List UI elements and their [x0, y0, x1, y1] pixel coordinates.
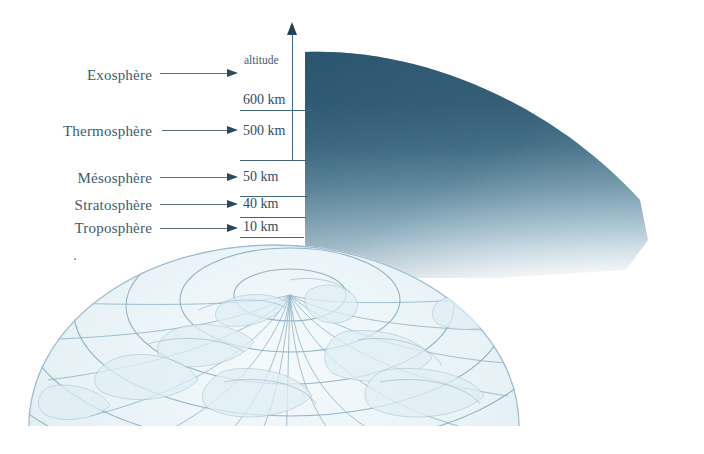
arrow-shaft — [160, 204, 227, 205]
arrow-shaft — [160, 228, 227, 229]
layer-label-mesosphere: Mésosphère — [78, 171, 152, 186]
layer-label-stratosphere: Stratosphère — [75, 198, 152, 213]
pointer-arrow-troposphere — [160, 224, 238, 233]
pointer-arrow-mesosphere — [160, 173, 238, 182]
altitude-axis-line — [292, 34, 294, 160]
altitude-rule-10km — [240, 237, 304, 238]
altitude-rule-600km — [240, 110, 314, 111]
altitude-tick-10km: 10 km — [243, 220, 278, 234]
arrow-head — [227, 224, 238, 232]
altitude-rule-500km — [240, 160, 312, 161]
arrow-head — [227, 69, 238, 77]
pointer-arrow-exosphere — [160, 69, 238, 78]
arrow-shaft — [160, 177, 227, 178]
altitude-tick-40km: 40 km — [243, 197, 278, 211]
arrow-head — [227, 200, 238, 208]
altitude-axis-caption: altitude — [244, 54, 279, 66]
layer-label-thermosphere: Thermosphère — [63, 124, 152, 139]
arrow-head — [227, 173, 238, 181]
pointer-arrow-stratosphere — [160, 200, 238, 209]
pointer-arrow-thermosphere — [162, 126, 238, 135]
layer-label-troposphere: Troposphère — [75, 221, 152, 236]
altitude-tick-50km: 50 km — [243, 170, 278, 184]
altitude-tick-500km: 500 km — [243, 124, 285, 138]
altitude-tick-600km: 600 km — [243, 93, 285, 107]
arrow-shaft — [160, 73, 227, 74]
arrow-shaft — [162, 130, 227, 131]
atmosphere-diagram: altitude Exosphère 600 km Thermosphère 5… — [0, 0, 704, 454]
layer-label-exosphere: Exosphère — [87, 68, 152, 83]
earth-globe — [28, 240, 520, 426]
arrow-head — [227, 126, 238, 134]
